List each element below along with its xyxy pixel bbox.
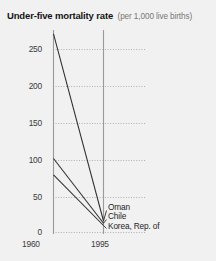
x-tick-label-1995: 1995 [91,239,109,249]
series-line-oman [54,34,104,221]
y-tick-label-0: 0 [14,227,42,237]
x-tick-label-1960: 1960 [22,239,40,249]
legend-item-korea: Korea, Rep. of [108,222,159,231]
y-tick-label-100: 100 [14,155,42,165]
series-line-korea [54,175,104,226]
chart-figure: Under-five mortality rate (per 1,000 liv… [0,0,216,261]
y-tick-label-200: 200 [14,81,42,91]
chart-legend: Oman Chile Korea, Rep. of [108,203,159,231]
y-tick-label-150: 150 [14,118,42,128]
y-tick-label-250: 250 [14,44,42,54]
y-tick-label-50: 50 [14,192,42,202]
